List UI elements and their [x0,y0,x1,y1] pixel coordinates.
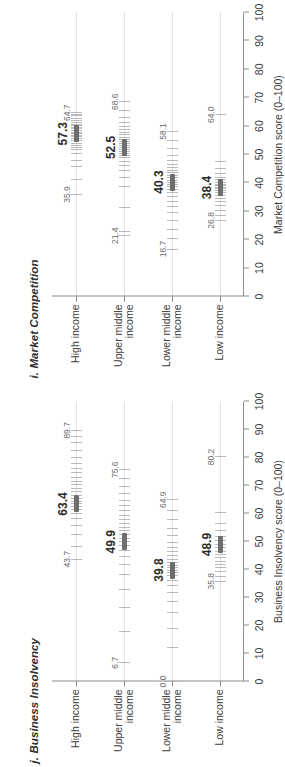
observation-mark [71,142,82,143]
y-axis-tick [124,680,125,686]
observation-mark [119,122,130,123]
observation-mark [71,112,82,113]
mean-value-label: 52.5 [104,135,118,158]
observation-mark [167,212,178,213]
observation-mark [119,160,130,161]
observation-mark [215,560,226,561]
x-axis-tick-label: 30 [253,591,265,603]
observation-mark [167,612,178,613]
category-label-line: income [124,304,136,366]
min-value-label: 35.9 [62,186,72,203]
y-axis-tick [124,295,125,301]
category-label-line: income [172,689,184,751]
observation-mark [119,176,130,177]
observation-mark [119,101,130,102]
x-axis-tick [244,238,249,239]
panel-title: j. Business Insolvency [28,637,40,763]
min-value-label: 26.8 [206,212,216,229]
category-label-line: income [124,689,136,751]
category-label-line: Low income [214,304,226,360]
observation-mark [167,535,178,536]
min-value-label: 6.7 [110,656,120,668]
observation-mark [119,499,130,500]
x-axis-tick-label: 60 [253,507,265,519]
x-axis-tick [244,484,249,485]
observation-mark [215,563,226,564]
observation-mark [167,591,178,592]
observation-mark [167,163,178,164]
observation-mark [215,168,226,169]
x-axis-tick [244,456,249,457]
category-label-upper-middle: Upper middleincome [113,689,136,751]
observation-mark [167,579,178,580]
plot-area: 0102030405060708090100Market Competition… [52,12,244,296]
observation-mark [71,147,82,148]
y-axis-tick [220,680,221,686]
x-axis-tick-label: 80 [253,63,265,75]
observation-mark [119,129,130,130]
observation-mark [119,519,130,520]
mean-value-label: 49.9 [104,530,118,553]
mean-marker [218,536,223,553]
category-label-upper-middle: Upper middleincome [113,304,136,366]
x-axis-tick-label: 90 [253,423,265,435]
observation-mark [167,219,178,220]
x-axis-tick [244,680,249,681]
observation-mark [119,510,130,511]
observation-mark [167,167,178,168]
observation-mark [71,149,82,150]
max-value-label: 89.7 [62,422,72,439]
observation-mark [215,522,226,523]
mean-marker [74,495,79,512]
x-axis-tick-label: 0 [253,678,265,684]
category-label-lower-middle: Lower middleincome [161,689,184,751]
x-axis-tick-label: 0 [253,293,265,299]
observation-mark [119,530,130,531]
observation-mark [119,169,130,170]
observation-mark [167,205,178,206]
min-value-label: 35.8 [206,572,216,589]
observation-mark [71,558,82,559]
observation-mark [215,201,226,202]
x-axis-tick [244,11,249,12]
observation-mark [119,478,130,479]
max-value-label: 80.2 [206,448,216,465]
observation-mark [167,510,178,511]
observation-mark [167,200,178,201]
x-axis-tick-label: 30 [253,205,265,217]
observation-mark [167,228,178,229]
observation-mark [71,442,82,443]
y-axis-tick [172,680,173,686]
observation-mark [71,153,82,154]
observation-mark [119,134,130,135]
observation-mark [119,186,130,187]
observation-mark [215,580,226,581]
x-axis-tick [244,540,249,541]
mean-value-label: 39.8 [152,558,166,581]
observation-mark [215,114,226,115]
observation-mark [215,456,226,457]
observation-mark [119,231,130,232]
panel-market-competition: i. Market Competition0102030405060708090… [22,0,276,382]
observation-mark [215,173,226,174]
mean-value-label: 38.4 [200,175,214,198]
observation-mark [71,533,82,534]
observation-mark [119,110,130,111]
x-axis-tick-label: 40 [253,177,265,189]
observation-mark [119,606,130,607]
x-axis-tick [244,96,249,97]
category-label-low: Low income [214,304,226,360]
observation-mark [215,214,226,215]
observation-mark [215,557,226,558]
observation-mark [167,546,178,547]
observation-mark [71,159,82,160]
x-axis-tick-label: 100 [253,3,265,21]
observation-mark [167,555,178,556]
observation-mark [119,164,130,165]
observation-mark [71,472,82,473]
x-axis-tick [244,568,249,569]
observation-mark [71,194,82,195]
panel-title: i. Market Competition [28,259,40,378]
x-axis-tick [244,652,249,653]
observation-mark [215,160,226,161]
